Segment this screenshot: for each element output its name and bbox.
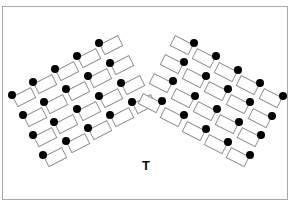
student-desk — [182, 69, 210, 88]
desk-rect — [214, 63, 237, 82]
student-desk — [193, 102, 221, 121]
student-desk — [248, 109, 276, 128]
student-dot — [39, 151, 47, 159]
desk-rect — [204, 135, 227, 154]
student-desk — [40, 95, 68, 114]
student-desk — [73, 102, 101, 121]
student-desk — [95, 89, 123, 108]
desk-rect — [170, 36, 193, 55]
student-dot — [224, 85, 232, 93]
desk-rect — [226, 95, 249, 114]
desk-rect — [248, 109, 271, 128]
desk-rect — [182, 69, 205, 88]
student-dot — [158, 97, 166, 105]
student-desk — [204, 135, 232, 154]
desk-rect — [55, 115, 78, 134]
student-desk — [51, 62, 79, 81]
student-dot — [117, 79, 125, 87]
desk-rect — [34, 128, 57, 147]
desk-rect — [160, 108, 183, 127]
student-desk — [19, 108, 47, 127]
desk-rect — [111, 108, 134, 127]
student-desk — [62, 82, 90, 101]
desk-rect — [259, 89, 282, 108]
student-desk — [215, 115, 243, 134]
student-dot — [8, 91, 16, 99]
student-dot — [106, 59, 114, 67]
student-dot — [180, 111, 188, 119]
desk-rect — [160, 55, 183, 74]
student-desk — [182, 122, 210, 141]
student-dot — [51, 65, 59, 73]
student-desk — [192, 49, 220, 68]
desk-rect — [78, 102, 101, 121]
desk-rect — [45, 95, 68, 114]
student-dot — [62, 85, 70, 93]
student-dot — [29, 78, 37, 86]
desk-rect — [192, 49, 215, 68]
student-dot — [29, 131, 37, 139]
desk-rect — [237, 128, 260, 147]
desk-rect — [182, 122, 205, 141]
student-dot — [73, 105, 81, 113]
student-desk — [214, 63, 242, 82]
student-desk — [226, 148, 254, 167]
student-desk — [237, 128, 265, 147]
desk-rect — [44, 148, 67, 167]
student-dot — [246, 98, 254, 106]
student-desk — [84, 121, 112, 140]
student-desk — [62, 134, 90, 153]
student-desk — [73, 49, 101, 68]
student-dot — [279, 92, 287, 100]
desk-rect — [89, 121, 112, 140]
desk-rect — [215, 115, 238, 134]
student-dot — [191, 92, 199, 100]
student-desk — [170, 36, 198, 55]
student-desk — [160, 108, 188, 127]
student-dot — [40, 98, 48, 106]
desk-rect — [56, 62, 79, 81]
desk-rect — [149, 74, 172, 93]
student-desk — [171, 89, 199, 108]
student-desk — [160, 55, 188, 74]
student-dot — [202, 72, 210, 80]
desk-rect — [24, 108, 47, 127]
student-desk — [84, 69, 112, 88]
desk-rect — [111, 56, 134, 75]
desk-rect — [89, 69, 112, 88]
desk-rect — [236, 76, 259, 95]
desk-rect — [100, 36, 123, 55]
desk-rect — [171, 89, 194, 108]
student-dot — [50, 118, 58, 126]
student-dot — [213, 105, 221, 113]
student-dot — [202, 125, 210, 133]
seating-diagram: T — [0, 0, 293, 204]
student-dot — [268, 112, 276, 120]
desk-rect — [34, 75, 57, 94]
student-desk — [236, 76, 264, 95]
student-dot — [212, 52, 220, 60]
teacher-label: T — [142, 158, 150, 173]
student-desk — [106, 56, 134, 75]
student-dot — [95, 39, 103, 47]
desk-rect — [193, 102, 216, 121]
student-desk — [149, 74, 177, 93]
student-desk — [259, 89, 287, 108]
student-dot — [246, 151, 254, 159]
student-dot — [62, 137, 70, 145]
student-dot — [169, 77, 177, 85]
student-dot — [128, 98, 136, 106]
student-desk — [29, 75, 57, 94]
desk-rect — [78, 49, 101, 68]
student-dot — [84, 124, 92, 132]
desk-rect — [67, 82, 90, 101]
desk-rect — [204, 82, 227, 101]
student-desk — [50, 115, 78, 134]
student-dot — [95, 92, 103, 100]
desk-rect — [67, 134, 90, 153]
student-dot — [190, 39, 198, 47]
student-dot — [235, 118, 243, 126]
student-dot — [256, 79, 264, 87]
student-desk — [117, 76, 145, 95]
student-dot — [106, 111, 114, 119]
